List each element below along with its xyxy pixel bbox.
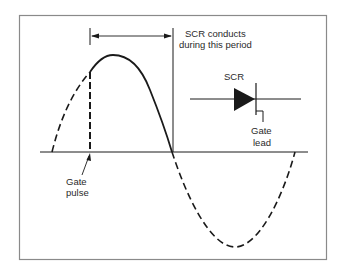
gate-lead-label-line1: Gate: [251, 125, 272, 136]
sine-wave-dashed-rising: [52, 72, 90, 152]
scr-symbol: SCR Gate lead: [190, 71, 301, 148]
gate-lead-label-line2: lead: [253, 137, 271, 148]
arrowhead-left: [91, 34, 99, 39]
scr-triangle-icon: [234, 88, 255, 111]
sine-wave-solid-conducting: [90, 55, 172, 152]
arrowhead-right: [164, 34, 172, 39]
gate-pulse-label-line1: Gate: [66, 176, 87, 187]
sine-wave-dashed-negative: [172, 152, 295, 247]
gate-pulse-arrowhead: [87, 153, 92, 161]
period-label-line1: SCR conducts: [185, 28, 246, 39]
period-label-line2: during this period: [179, 39, 252, 50]
scr-label: SCR: [224, 71, 244, 82]
gate-pulse-label-line2: pulse: [66, 187, 89, 198]
scr-gate-lead: [256, 111, 263, 122]
scr-diagram: SCR conducts during this period SCR Gate…: [0, 0, 343, 271]
